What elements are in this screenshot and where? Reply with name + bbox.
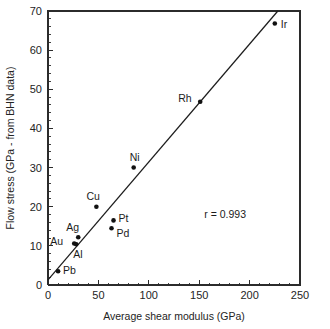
linear-regression-line: [48, 11, 278, 280]
data-point-ag: [76, 235, 81, 240]
data-point-label-ir: Ir: [281, 18, 288, 30]
scatter-chart-figure: 050100150200250010203040506070 PbAuAlAgC…: [0, 0, 330, 329]
data-point-rh: [198, 100, 203, 105]
y-tick-label: 10: [30, 240, 42, 252]
data-point-label-pb: Pb: [63, 264, 76, 276]
x-tick-label: 50: [92, 289, 104, 301]
data-point-label-ag: Ag: [66, 221, 79, 233]
y-tick-label: 0: [36, 279, 42, 291]
annotation-correlation: r = 0.993: [204, 208, 246, 220]
data-point-label-pd: Pd: [117, 227, 130, 239]
x-tick-label: 200: [240, 289, 258, 301]
chart-annotations: r = 0.993: [204, 208, 246, 220]
data-point-cu: [94, 204, 99, 209]
data-points: [56, 21, 277, 273]
y-tick-label: 40: [30, 122, 42, 134]
data-point-pb: [56, 269, 61, 274]
plot-canvas: 050100150200250010203040506070 PbAuAlAgC…: [0, 0, 330, 329]
y-axis-title: Flow stress (GPa - from BHN data): [4, 67, 16, 230]
axis-ticks: [48, 11, 300, 285]
data-point-label-rh: Rh: [178, 92, 192, 104]
data-point-labels: PbAuAlAgCuPdPtNiRhIr: [50, 18, 288, 277]
y-tick-label: 20: [30, 201, 42, 213]
data-point-ir: [273, 21, 278, 26]
data-point-label-pt: Pt: [119, 212, 129, 224]
data-point-label-cu: Cu: [86, 190, 100, 202]
data-point-label-al: Al: [73, 248, 82, 260]
x-tick-label: 250: [291, 289, 309, 301]
x-tick-label: 100: [140, 289, 158, 301]
y-tick-label: 50: [30, 83, 42, 95]
linear-regression-line: [48, 11, 278, 280]
data-point-pt: [111, 218, 116, 223]
axes: [48, 11, 300, 285]
data-point-al: [74, 242, 79, 247]
data-point-label-au: Au: [50, 235, 63, 247]
axis-tick-labels: 050100150200250010203040506070: [30, 5, 309, 301]
data-point-ni: [131, 165, 136, 170]
data-point-pd: [109, 226, 114, 231]
y-tick-label: 30: [30, 162, 42, 174]
x-tick-label: 0: [45, 289, 51, 301]
data-point-label-ni: Ni: [130, 151, 140, 163]
axis-frame: [48, 11, 300, 285]
x-tick-label: 150: [190, 289, 208, 301]
y-tick-label: 70: [30, 5, 42, 17]
x-axis-title: Average shear modulus (GPa): [103, 310, 245, 322]
y-tick-label: 60: [30, 44, 42, 56]
